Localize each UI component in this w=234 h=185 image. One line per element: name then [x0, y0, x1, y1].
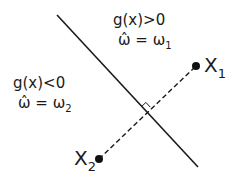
point-x2-label: X2	[74, 148, 96, 168]
region-positive-decision: ω̂ = ω1	[118, 33, 172, 48]
condition-text: g(x)<0	[13, 74, 65, 92]
omega-class: ω	[53, 94, 66, 112]
omega-class: ω	[153, 31, 166, 49]
region-negative-decision: ω̂ = ω2	[18, 96, 72, 111]
equals-sign: =	[35, 94, 48, 112]
point-name: X	[204, 53, 218, 77]
region-negative-condition: g(x)<0	[13, 76, 65, 91]
point-x1-label: X1	[204, 55, 226, 75]
class-subscript: 1	[165, 40, 171, 51]
omega-hat: ω̂	[18, 94, 31, 112]
region-positive-condition: g(x)>0	[113, 13, 165, 28]
connecting-dashed-line	[99, 66, 196, 159]
condition-text: g(x)>0	[113, 11, 165, 29]
point-subscript: 1	[218, 66, 226, 81]
point-subscript: 2	[88, 159, 96, 174]
class-subscript: 2	[65, 103, 71, 114]
equals-sign: =	[135, 31, 148, 49]
point-name: X	[74, 146, 88, 170]
point-x2-dot	[95, 155, 103, 163]
point-x1-dot	[192, 62, 200, 70]
omega-hat: ω̂	[118, 31, 131, 49]
